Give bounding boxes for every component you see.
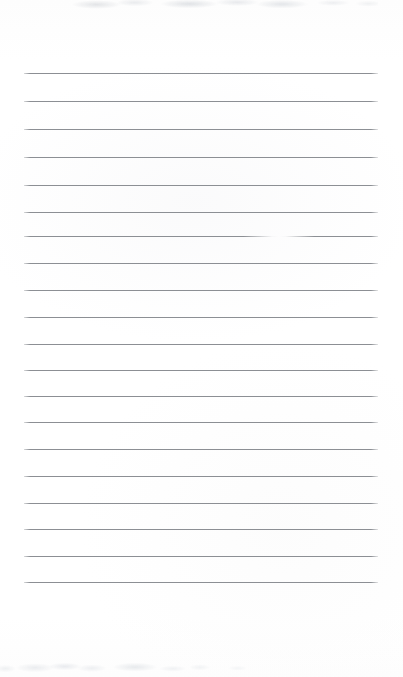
ruled-line xyxy=(24,556,378,557)
ruled-line xyxy=(24,344,378,345)
ruled-line xyxy=(24,422,378,423)
ruled-line xyxy=(24,370,378,371)
ruled-line xyxy=(24,212,378,213)
scanned-page xyxy=(0,0,403,677)
ruled-line xyxy=(24,129,378,130)
ruled-line xyxy=(24,529,378,530)
ruled-line xyxy=(24,263,378,264)
ruled-line xyxy=(24,157,378,158)
ruled-line xyxy=(24,317,378,318)
ruled-lines-group xyxy=(0,0,403,677)
ruled-line xyxy=(24,185,378,186)
ruled-line xyxy=(24,503,378,504)
ruled-line xyxy=(24,236,378,237)
ruled-line xyxy=(24,582,378,583)
ruled-line xyxy=(24,476,378,477)
ruled-line xyxy=(24,290,378,291)
ruled-line xyxy=(24,101,378,102)
ruled-line xyxy=(24,449,378,450)
ruled-line xyxy=(24,396,378,397)
ruled-line xyxy=(24,73,378,74)
